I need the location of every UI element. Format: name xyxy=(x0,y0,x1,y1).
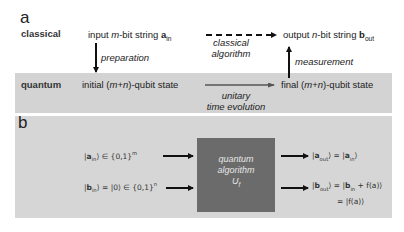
arrows-layer xyxy=(0,0,404,232)
